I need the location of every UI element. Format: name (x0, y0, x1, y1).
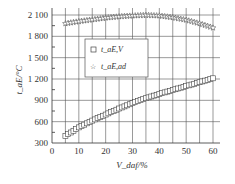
y-tick-label: 1 200 (28, 74, 49, 84)
y-tick-label: 2 100 (28, 10, 49, 20)
legend-label-0: t_aE,V (101, 45, 124, 54)
y-tick-label: 300 (35, 138, 49, 148)
y-tick-label: 600 (35, 117, 49, 127)
x-tick-label: 60 (209, 146, 219, 156)
x-tick-label: 30 (128, 146, 138, 156)
data-point-square (211, 76, 216, 81)
chart: 01020304050603006009001 2001 5001 8002 1… (0, 0, 235, 184)
y-axis-label: t_aE/°C (14, 64, 24, 94)
x-tick-label: 10 (74, 146, 84, 156)
y-tick-label: 900 (35, 95, 49, 105)
legend: t_aE,V ☆ t_aE,ad (85, 39, 148, 77)
legend-star-icon: ☆ (90, 63, 96, 71)
x-tick-label: 20 (101, 146, 111, 156)
y-axis-label-text: t_aE/°C (14, 64, 24, 94)
legend-label-1: t_aE,ad (101, 62, 127, 71)
y-tick-label: 1 800 (28, 31, 49, 41)
x-axis-label: V_daf/% (116, 160, 148, 170)
x-tick-label: 0 (50, 146, 55, 156)
y-tick-label: 1 500 (28, 53, 49, 63)
x-tick-label: 40 (155, 146, 165, 156)
x-tick-label: 50 (182, 146, 192, 156)
